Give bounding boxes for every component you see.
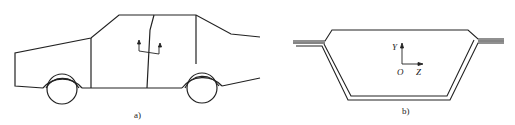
car-outline	[15, 15, 260, 88]
figure-canvas	[0, 0, 515, 125]
y-axis-label: Y	[392, 42, 397, 52]
coordinate-axes-icon	[401, 43, 424, 66]
z-axis-label: Z	[416, 67, 421, 77]
caption-a: a)	[134, 110, 141, 120]
caption-b: b)	[402, 106, 410, 116]
origin-label: O	[397, 67, 404, 77]
door-section-profile	[293, 30, 504, 100]
